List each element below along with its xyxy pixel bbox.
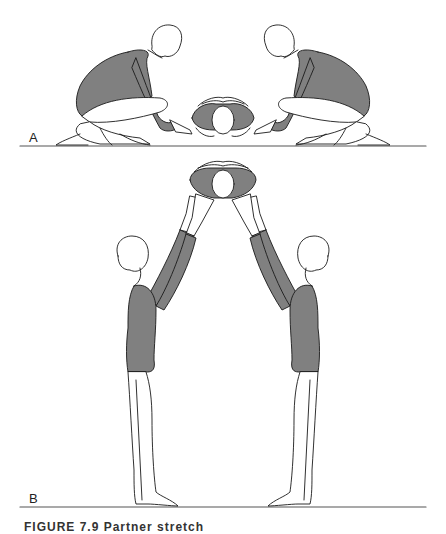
figure-caption: FIGURE 7.9 Partner stretch [24,520,204,534]
kneeling-figure-right [254,25,390,145]
kneeling-figure-left [56,25,192,145]
panel-a-illustration [20,25,426,146]
panel-label-b: B [29,491,38,506]
panel-b-illustration [20,161,426,507]
suspended-figure [190,161,256,198]
standing-figure-left [117,194,214,506]
lying-figure [192,97,254,136]
panel-label-a: A [29,130,38,145]
standing-figure-right [232,194,329,506]
